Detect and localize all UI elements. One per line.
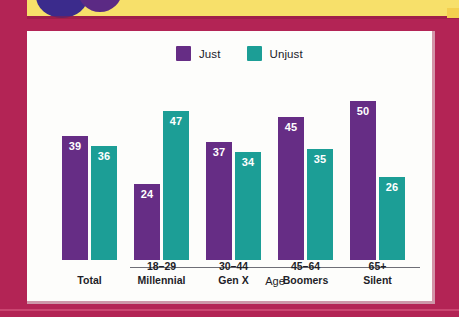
bar-value-label: 26 xyxy=(379,181,405,193)
bar-unjust-2: 34 xyxy=(235,152,261,260)
card-edge-right xyxy=(432,31,435,301)
chart-card: Just Unjust Age 3936Total244718–29Millen… xyxy=(27,31,432,301)
chart-page: Just Unjust Age 3936Total244718–29Millen… xyxy=(0,0,459,317)
category-label-line1: 30–44 xyxy=(219,260,248,272)
bar-unjust-1: 47 xyxy=(163,111,189,260)
plot-area: Age 3936Total244718–29Millennial373430–4… xyxy=(27,31,432,301)
bar-just-3: 45 xyxy=(278,117,304,260)
category-label-line1: Total xyxy=(77,274,101,286)
category-label-line1: 65+ xyxy=(369,260,387,272)
bar-value-label: 39 xyxy=(62,140,88,152)
bar-just-0: 39 xyxy=(62,136,88,260)
bar-value-label: 37 xyxy=(206,146,232,158)
bar-value-label: 24 xyxy=(134,188,160,200)
decorative-corner-nub xyxy=(447,8,459,18)
category-label-line1: 18–29 xyxy=(147,260,176,272)
bar-value-label: 36 xyxy=(91,150,117,162)
bar-value-label: 50 xyxy=(350,105,376,117)
bar-just-4: 50 xyxy=(350,101,376,260)
card-edge-bottom xyxy=(27,301,435,304)
bar-value-label: 47 xyxy=(163,115,189,127)
bar-unjust-0: 36 xyxy=(91,146,117,260)
category-label-line1: 45–64 xyxy=(291,260,320,272)
decorative-hairline xyxy=(0,309,459,311)
category-label-4: 65+Silent xyxy=(334,259,422,287)
bar-value-label: 35 xyxy=(307,153,333,165)
category-label-line2: Silent xyxy=(334,273,422,287)
bar-unjust-4: 26 xyxy=(379,177,405,260)
bar-value-label: 45 xyxy=(278,121,304,133)
decorative-band-shadow xyxy=(27,16,459,19)
bar-unjust-3: 35 xyxy=(307,149,333,260)
bar-value-label: 34 xyxy=(235,156,261,168)
bar-just-2: 37 xyxy=(206,142,232,260)
bar-just-1: 24 xyxy=(134,184,160,260)
